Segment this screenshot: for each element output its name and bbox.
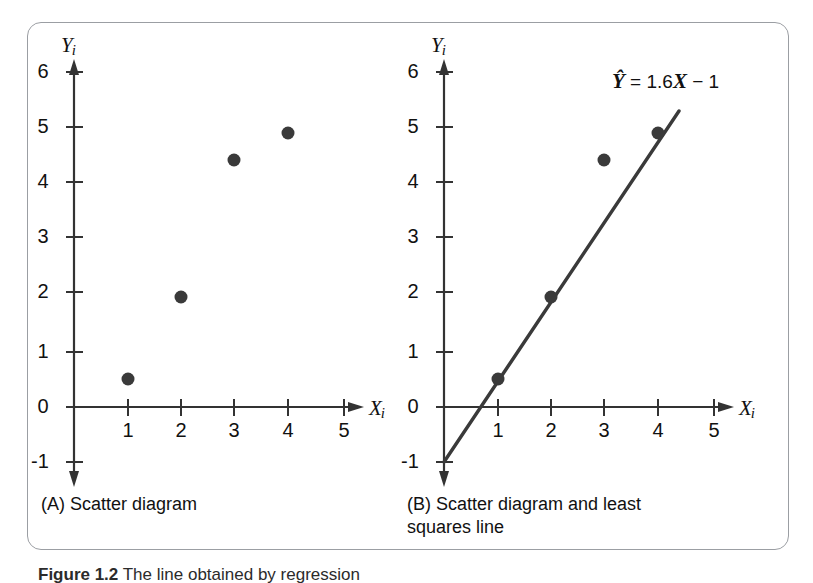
x-tick-label: 2 <box>536 419 566 442</box>
x-tick-label: 3 <box>589 419 619 442</box>
panel-caption-a: (A) Scatter diagram <box>41 493 197 516</box>
y-axis-title-b: Yi <box>431 33 446 59</box>
regression-equation-label: Ŷ = 1.6X − 1 <box>612 69 719 94</box>
x-axis-title-a: Xi <box>369 396 385 422</box>
y-axis-arrow-down-b <box>439 471 449 487</box>
y-axis-title-a: Yi <box>61 33 76 59</box>
x-tick-label: 4 <box>643 419 673 442</box>
panel-scatter-diagram: Yi Xi 6 5 4 3 2 1 0 -1 1 2 3 4 5 (A) Sca… <box>28 23 409 551</box>
data-point <box>652 127 665 140</box>
x-tick-label: 1 <box>113 419 143 442</box>
data-point <box>228 154 241 167</box>
x-axis-title-b: Xi <box>739 396 755 422</box>
x-tick-label: 1 <box>483 419 513 442</box>
y-tick-label: -1 <box>22 450 58 473</box>
least-squares-line <box>444 111 679 462</box>
y-tick-label: 0 <box>28 395 58 418</box>
y-tick-label: 6 <box>398 60 428 83</box>
y-axis-arrow-down-a <box>69 471 79 487</box>
x-tick-label: 2 <box>166 419 196 442</box>
y-tick-label: 6 <box>28 60 58 83</box>
y-tick-label: 5 <box>28 115 58 138</box>
data-point <box>492 373 505 386</box>
x-tick-label: 3 <box>219 419 249 442</box>
y-tick-label: 3 <box>398 225 428 248</box>
figure-caption: Figure 1.2 The line obtained by regressi… <box>38 565 360 583</box>
scatter-points-b <box>492 127 665 386</box>
y-tick-label: -1 <box>392 450 428 473</box>
data-point <box>598 154 611 167</box>
y-tick-label: 1 <box>28 340 58 363</box>
plot-area-b <box>394 23 775 551</box>
y-tick-label: 2 <box>398 280 428 303</box>
data-point <box>175 291 188 304</box>
x-tick-label: 5 <box>699 419 729 442</box>
scatter-points-a <box>122 127 295 386</box>
panel-caption-b: (B) Scatter diagram and least squares li… <box>407 493 641 539</box>
y-tick-label: 5 <box>398 115 428 138</box>
y-tick-label: 4 <box>398 170 428 193</box>
y-tick-label: 2 <box>28 280 58 303</box>
figure-number: Figure 1.2 <box>38 565 118 583</box>
y-tick-label: 3 <box>28 225 58 248</box>
data-point <box>545 291 558 304</box>
y-tick-label: 4 <box>28 170 58 193</box>
figure-caption-body: The line obtained by regression <box>123 565 360 583</box>
data-point <box>282 127 295 140</box>
x-axis-arrow-b <box>718 402 734 412</box>
x-tick-label: 5 <box>329 419 359 442</box>
x-tick-label: 4 <box>273 419 303 442</box>
figure-box: Yi Xi 6 5 4 3 2 1 0 -1 1 2 3 4 5 (A) Sca… <box>27 22 789 550</box>
panel-scatter-with-regression: Yi Xi 6 5 4 3 2 1 0 -1 1 2 3 4 5 Ŷ = 1.6… <box>394 23 775 551</box>
plot-area-a <box>28 23 409 551</box>
y-tick-label: 0 <box>398 395 428 418</box>
data-point <box>122 373 135 386</box>
y-tick-label: 1 <box>398 340 428 363</box>
x-axis-arrow-a <box>348 402 364 412</box>
